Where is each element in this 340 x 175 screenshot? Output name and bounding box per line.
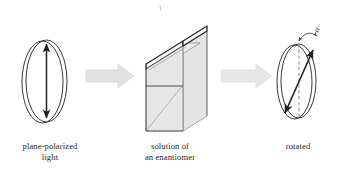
polarization-vector-rotated: [285, 50, 313, 113]
cell-hidden-edge-inner-rim: [146, 46, 183, 69]
rotated-light-icon: [277, 33, 317, 119]
block-arrow-right-icon: [221, 64, 272, 88]
caption-solution-of-an-enantiomer: solution of an enantiomer: [116, 141, 224, 162]
plane-polarized-light-icon: [22, 40, 67, 123]
angle-symbol-alpha: α: [312, 25, 322, 34]
caption-plane-polarized-light: plane-polarized light: [0, 141, 100, 162]
rotated-ellipse-front: [281, 44, 316, 118]
caption-line-2: an enantiomer: [116, 152, 224, 163]
polarization-ellipse-front: [26, 40, 67, 122]
optical-rotation-figure: α plane-polarized light solution of an e…: [0, 0, 340, 175]
arrow-2: [221, 64, 272, 88]
caption-line-2: light: [0, 152, 100, 163]
rotated-ellipse-back: [277, 45, 312, 119]
caption-line-1: plane-polarized: [0, 141, 100, 152]
cell-inner-wall-line: [149, 47, 186, 70]
arrow-1: [86, 64, 134, 88]
cell-hidden-edge-bottom-right: [183, 116, 207, 131]
cell-face-front: [146, 46, 183, 131]
cell-top-rim-right: [183, 26, 207, 46]
caption-line-1: rotated: [256, 141, 340, 152]
caption-line-1: solution of: [116, 141, 224, 152]
cell-top-rim: [146, 41, 183, 69]
scan-artifact-mark: [160, 5, 161, 11]
cell-face-right: [183, 31, 207, 131]
cell-face-front-diagonal: [146, 85, 183, 131]
cell-hidden-edge-top-right: [183, 31, 207, 46]
polarization-ellipse-back: [22, 41, 63, 123]
block-arrow-right-icon: [86, 64, 134, 88]
caption-rotated: rotated: [256, 141, 340, 152]
rotation-angle-arc: [299, 33, 317, 41]
sample-cell-3d-box-icon: [146, 5, 207, 131]
cell-liquid-surface: [151, 43, 200, 66]
